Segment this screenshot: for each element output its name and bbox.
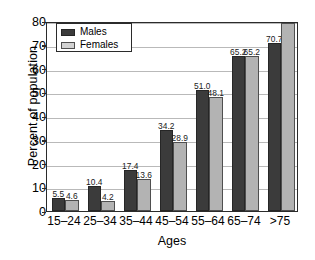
bar-value-label: 17.4 — [119, 162, 141, 170]
y-axis-tick-label: 50 — [6, 87, 46, 100]
legend-item-females: Females — [61, 39, 131, 51]
y-axis-ticks: 01020304050607080 — [0, 22, 46, 212]
bar-females — [101, 201, 115, 211]
legend: Males Females — [56, 23, 132, 52]
bar-males — [196, 90, 210, 211]
bar-value-label: 79.0 — [277, 23, 297, 24]
x-axis-title: Ages — [46, 234, 298, 248]
bar-value-label: 13.6 — [133, 171, 155, 179]
bar-males — [232, 56, 246, 211]
legend-label-males: Males — [80, 27, 107, 37]
bar-value-label: 10.4 — [83, 178, 105, 186]
y-axis-tick-label: 20 — [6, 158, 46, 171]
bar-females — [245, 56, 259, 211]
legend-label-females: Females — [80, 40, 118, 50]
bar-value-label: 4.6 — [61, 192, 83, 200]
bar-males — [268, 43, 282, 211]
legend-swatch-males-icon — [61, 29, 75, 36]
y-axis-tick-label: 10 — [6, 182, 46, 195]
bar-females — [173, 142, 187, 211]
x-axis-tick-label: >75 — [256, 214, 304, 228]
gridline — [47, 118, 297, 119]
bar-value-label: 48.1 — [205, 89, 227, 97]
bar-females — [65, 200, 79, 211]
bar-females — [137, 179, 151, 211]
y-axis-tick-label: 60 — [6, 63, 46, 76]
y-axis-tick-label: 80 — [6, 16, 46, 29]
bar-females — [281, 23, 295, 211]
gridline — [47, 94, 297, 95]
legend-swatch-females-icon — [61, 42, 75, 49]
gridline — [47, 71, 297, 72]
bar-value-label: 4.2 — [97, 193, 119, 201]
bar-value-label: 65.2 — [241, 48, 263, 56]
bar-chart: Percent of population 01020304050607080 … — [0, 0, 315, 260]
bar-females — [209, 97, 223, 211]
x-axis-tick-labels: 15–2425–3435–4445–5455–6465–74>75 — [46, 214, 298, 232]
legend-item-males: Males — [61, 26, 131, 38]
bar-value-label: 34.2 — [155, 122, 177, 130]
y-axis-tick-label: 40 — [6, 111, 46, 124]
y-axis-tick-label: 70 — [6, 40, 46, 53]
bar-value-label: 28.9 — [169, 134, 191, 142]
y-axis-tick-label: 30 — [6, 135, 46, 148]
